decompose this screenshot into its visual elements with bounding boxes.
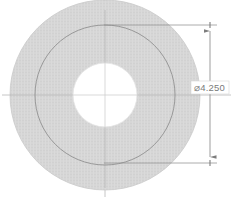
diameter-dimension[interactable]: ⌀4.250: [191, 22, 229, 166]
drawing-svg: ⌀4.250: [0, 0, 233, 199]
cad-drawing-canvas: ⌀4.250: [0, 0, 233, 199]
dimension-value-label: ⌀4.250: [194, 82, 225, 93]
